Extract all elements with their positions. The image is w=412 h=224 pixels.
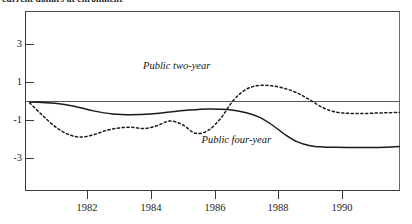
series-plot-area [0,0,412,224]
series-annotation-public-four-year: Public four-year [202,134,271,145]
series-annotation-public-two-year: Public two-year [143,60,210,71]
chart-container: current dollars at enrollment 3 1 -1 -3 … [0,0,412,224]
series-line-public-two-year [30,85,400,137]
